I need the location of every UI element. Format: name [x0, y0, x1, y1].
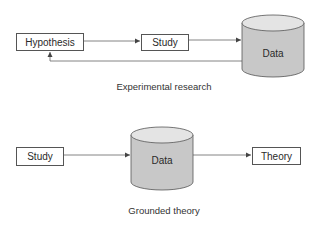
experimental-caption: Experimental research — [80, 81, 248, 92]
grounded-caption: Grounded theory — [80, 205, 248, 216]
experimental-data-cylinder — [242, 15, 304, 77]
theory-label: Theory — [261, 151, 292, 162]
study-node: Study — [16, 147, 64, 166]
study-label: Study — [27, 151, 53, 162]
data-node-label: Data — [131, 155, 193, 166]
data-node-label: Data — [242, 48, 304, 59]
study-label: Study — [152, 37, 178, 48]
theory-node: Theory — [252, 147, 301, 165]
hypothesis-label: Hypothesis — [25, 37, 74, 48]
edge-data-to-hypothesis — [50, 52, 242, 61]
study-node: Study — [141, 34, 189, 51]
hypothesis-node: Hypothesis — [16, 33, 84, 51]
